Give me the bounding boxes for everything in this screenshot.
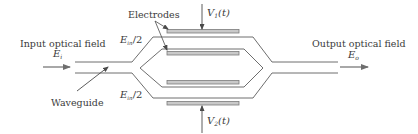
lower-arm-label: Ein/2 xyxy=(119,89,142,101)
electrode-pointer-inner xyxy=(155,21,167,50)
electrode-bottom xyxy=(167,102,239,106)
mzm-diagram: Input optical field Ei Output optical fi… xyxy=(0,0,418,134)
electrodes-label: Electrodes xyxy=(128,9,180,20)
input-field-label: Ei xyxy=(52,48,62,60)
v1-label: V1(t) xyxy=(207,7,230,19)
electrode-top xyxy=(167,30,239,34)
waveguide-pointer-arrow xyxy=(77,67,108,91)
electrode-upper-inner xyxy=(167,52,239,56)
electrodes xyxy=(167,30,239,106)
output-field-label: Eo xyxy=(347,49,359,61)
waveguide-label: Waveguide xyxy=(51,97,104,108)
waveguide-structure xyxy=(75,37,338,98)
v2-label: V2(t) xyxy=(207,115,230,127)
input-label: Input optical field xyxy=(20,38,106,49)
upper-arm-label: Ein/2 xyxy=(119,34,142,46)
waveguide-lower-outer xyxy=(75,73,338,98)
diagram-canvas: Input optical field Ei Output optical fi… xyxy=(0,0,418,134)
electrode-lower-inner xyxy=(167,81,239,85)
output-label: Output optical field xyxy=(312,38,406,49)
